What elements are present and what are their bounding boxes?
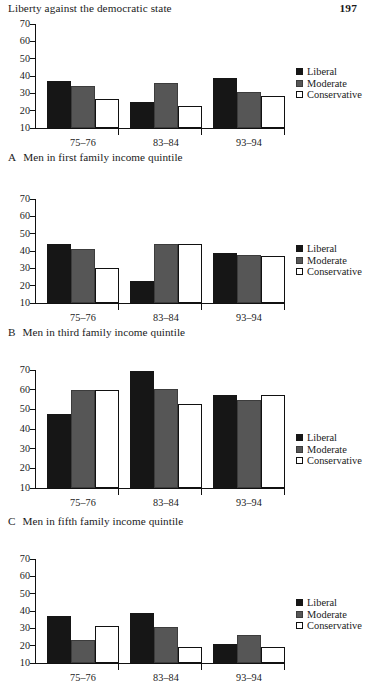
- legend-item-moderate: Moderate: [296, 78, 362, 90]
- bar-liberal-93-94: [213, 253, 237, 303]
- y-tick-label: 40: [20, 246, 30, 256]
- x-axis-category-label: 93–94: [236, 312, 262, 323]
- bar-moderate-93-94: [237, 255, 261, 303]
- bar-liberal-93-94: [213, 78, 237, 128]
- bar-moderate-93-94: [237, 635, 261, 663]
- figure-caption-c-letter: C: [8, 515, 16, 527]
- running-head-title: Liberty against the democratic state: [8, 2, 172, 14]
- y-tick-label: 20: [20, 106, 30, 116]
- y-tick-label: 50: [20, 404, 30, 414]
- legend-swatch-moderate-icon: [296, 446, 303, 453]
- bar-liberal-83-84: [130, 371, 154, 488]
- legend-label: Moderate: [307, 444, 347, 456]
- bar-conservative-93-94: [261, 395, 285, 488]
- legend-label: Moderate: [307, 78, 347, 90]
- legend-label: Liberal: [307, 243, 337, 255]
- legend-item-conservative: Conservative: [296, 455, 362, 467]
- legend-label: Moderate: [307, 255, 347, 267]
- y-tick-label: 50: [20, 229, 30, 239]
- y-tick-label: 10: [20, 123, 30, 133]
- figure-caption-c: CMen in fifth family income quintile: [8, 515, 183, 527]
- legend-label: Conservative: [307, 89, 362, 101]
- y-tick-label: 20: [20, 641, 30, 651]
- bar-liberal-93-94: [213, 644, 237, 663]
- bar-liberal-75-76: [47, 616, 71, 663]
- y-tick-label: 10: [20, 298, 30, 308]
- x-axis-line: [35, 128, 285, 129]
- legend-swatch-conservative-icon: [296, 457, 303, 464]
- legend-item-liberal: Liberal: [296, 243, 362, 255]
- x-axis-tick: [284, 664, 285, 670]
- bar-conservative-83-84: [178, 106, 202, 128]
- figure-caption-a: AMen in first family income quintile: [8, 151, 183, 163]
- bar-liberal-75-76: [47, 81, 71, 128]
- bar-moderate-83-84: [154, 627, 178, 663]
- figure-caption-b: BMen in third family income quintile: [8, 326, 185, 338]
- x-axis-tick: [201, 664, 202, 670]
- y-tick-label: 50: [20, 589, 30, 599]
- bar-liberal-75-76: [47, 414, 71, 488]
- legend-swatch-moderate-icon: [296, 257, 303, 264]
- legend-swatch-liberal-icon: [296, 68, 303, 75]
- legend-item-conservative: Conservative: [296, 89, 362, 101]
- legend-swatch-moderate-icon: [296, 611, 303, 618]
- y-tick-label: 30: [20, 444, 30, 454]
- legend-swatch-moderate-icon: [296, 80, 303, 87]
- legend-label: Conservative: [307, 620, 362, 632]
- bar-conservative-75-76: [95, 268, 119, 303]
- legend-item-conservative: Conservative: [296, 620, 362, 632]
- y-tick-label: 60: [20, 211, 30, 221]
- bar-conservative-93-94: [261, 96, 285, 128]
- legend-item-conservative: Conservative: [296, 266, 362, 278]
- figure-caption-b-text: Men in third family income quintile: [23, 326, 186, 338]
- x-axis-category-label: 83–84: [153, 137, 179, 148]
- x-axis-category-label: 93–94: [236, 497, 262, 508]
- bar-conservative-93-94: [261, 256, 285, 303]
- y-tick-label: 40: [20, 606, 30, 616]
- legend-item-liberal: Liberal: [296, 597, 362, 609]
- legend-swatch-liberal-icon: [296, 245, 303, 252]
- bar-conservative-83-84: [178, 404, 202, 488]
- bar-moderate-75-76: [71, 86, 95, 128]
- x-axis-tick: [118, 664, 119, 670]
- x-axis-tick: [118, 489, 119, 495]
- legend-d: LiberalModerateConservative: [296, 597, 362, 632]
- figure-caption-c-text: Men in fifth family income quintile: [23, 515, 184, 527]
- y-tick-label: 60: [20, 36, 30, 46]
- x-axis-tick: [118, 304, 119, 310]
- legend-swatch-liberal-icon: [296, 599, 303, 606]
- legend-label: Conservative: [307, 266, 362, 278]
- bar-liberal-83-84: [130, 613, 154, 663]
- bar-moderate-75-76: [71, 390, 95, 488]
- y-tick-label: 70: [20, 365, 30, 375]
- legend-item-liberal: Liberal: [296, 432, 362, 444]
- y-tick-label: 70: [20, 554, 30, 564]
- bar-moderate-75-76: [71, 249, 95, 303]
- bar-moderate-83-84: [154, 244, 178, 303]
- bar-moderate-75-76: [71, 640, 95, 663]
- x-axis-tick: [201, 129, 202, 135]
- x-axis-line: [35, 303, 285, 304]
- bar-moderate-93-94: [237, 92, 261, 128]
- bar-liberal-75-76: [47, 244, 71, 303]
- bar-conservative-75-76: [95, 626, 119, 663]
- y-tick-label: 40: [20, 424, 30, 434]
- y-tick-label: 30: [20, 263, 30, 273]
- bar-conservative-75-76: [95, 99, 119, 128]
- bar-liberal-83-84: [130, 102, 154, 128]
- x-axis-tick: [201, 489, 202, 495]
- bar-moderate-93-94: [237, 400, 261, 489]
- x-axis-tick: [118, 129, 119, 135]
- y-tick-label: 30: [20, 623, 30, 633]
- figure-caption-b-letter: B: [8, 326, 16, 338]
- y-tick-label: 60: [20, 571, 30, 581]
- figure-caption-a-text: Men in first family income quintile: [23, 151, 183, 163]
- y-tick-label: 60: [20, 385, 30, 395]
- y-tick-label: 20: [20, 463, 30, 473]
- x-axis-category-label: 83–84: [153, 497, 179, 508]
- x-axis-tick: [284, 129, 285, 135]
- y-axis-line: [35, 24, 36, 129]
- page-number: 197: [340, 2, 357, 14]
- legend-c: LiberalModerateConservative: [296, 432, 362, 467]
- x-axis-category-label: 75–76: [70, 672, 96, 683]
